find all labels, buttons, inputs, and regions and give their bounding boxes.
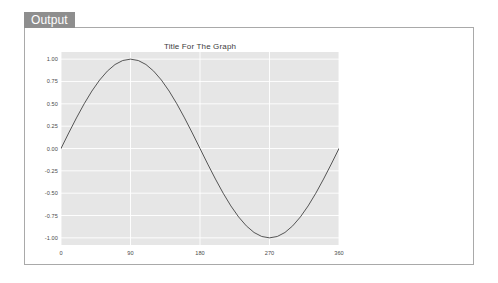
y-tick-label: -0.25 [26,168,58,174]
chart-figure: Title For The Graph 1.000.750.500.250.00… [25,28,375,264]
x-axis-tick-labels: 090180270360 [61,250,339,262]
x-tick-label: 0 [46,250,76,256]
plot-svg [61,52,339,245]
x-tick-label: 90 [116,250,146,256]
y-tick-label: 0.50 [26,101,58,107]
y-tick-label: -0.50 [26,190,58,196]
y-tick-label: -0.75 [26,213,58,219]
y-axis-tick-labels: 1.000.750.500.250.00-0.25-0.50-0.75-1.00 [25,52,58,245]
output-panel: Title For The Graph 1.000.750.500.250.00… [24,27,474,265]
y-tick-label: 1.00 [26,56,58,62]
x-tick-label: 360 [324,250,354,256]
output-tab[interactable]: Output [24,12,75,28]
x-tick-label: 270 [255,250,285,256]
y-tick-label: 0.25 [26,123,58,129]
x-tick-label: 180 [185,250,215,256]
chart-title: Title For The Graph [25,42,375,51]
y-tick-label: 0.75 [26,78,58,84]
plot-area [61,52,339,245]
y-tick-label: 0.00 [26,146,58,152]
y-tick-label: -1.00 [26,235,58,241]
